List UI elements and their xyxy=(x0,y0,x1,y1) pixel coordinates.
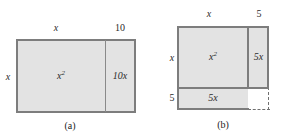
panel-a-left-label-x: x xyxy=(2,71,14,82)
panel-b-horizontal-divider xyxy=(177,87,269,89)
panel-b-region-missing-square xyxy=(248,87,269,110)
panel-a-label-x-squared: x2 xyxy=(49,70,73,81)
panel-a-top-label-10: 10 xyxy=(108,22,132,33)
panel-b: x 5 x 5 x2 5x 5x (b) xyxy=(141,0,282,139)
panel-b-label-5x-right: 5x xyxy=(248,51,269,62)
panel-b-missing-square-right-dashed-edge xyxy=(268,87,269,110)
panel-a-divider xyxy=(105,40,106,112)
panel-b-left-edge xyxy=(177,26,179,110)
panel-b-missing-square-bottom-dashed-edge xyxy=(248,109,270,110)
panel-b-label-x-squared-exponent: 2 xyxy=(213,50,217,58)
panel-a: x 10 x x2 10x (a) xyxy=(0,0,141,139)
panel-a-bottom-edge xyxy=(16,111,136,113)
figure-root: x 10 x x2 10x (a) x 5 x 5 xyxy=(0,0,282,139)
panel-a-label-x-squared-exponent: 2 xyxy=(61,69,65,77)
panel-b-top-label-x: x xyxy=(199,8,219,19)
panel-a-right-edge xyxy=(134,39,136,113)
panel-a-left-edge xyxy=(16,39,18,113)
panel-b-caption: (b) xyxy=(204,119,242,130)
panel-b-top-edge xyxy=(177,26,269,28)
panel-b-label-x-squared: x2 xyxy=(201,51,225,62)
panel-a-top-label-x: x xyxy=(44,22,68,33)
panel-a-label-10x: 10x xyxy=(108,70,132,81)
panel-a-top-edge xyxy=(16,39,136,41)
panel-b-bottom-edge xyxy=(177,108,249,110)
panel-a-caption: (a) xyxy=(51,120,89,131)
panel-b-label-5x-bottom: 5x xyxy=(201,92,225,103)
panel-b-top-label-5: 5 xyxy=(249,8,269,19)
